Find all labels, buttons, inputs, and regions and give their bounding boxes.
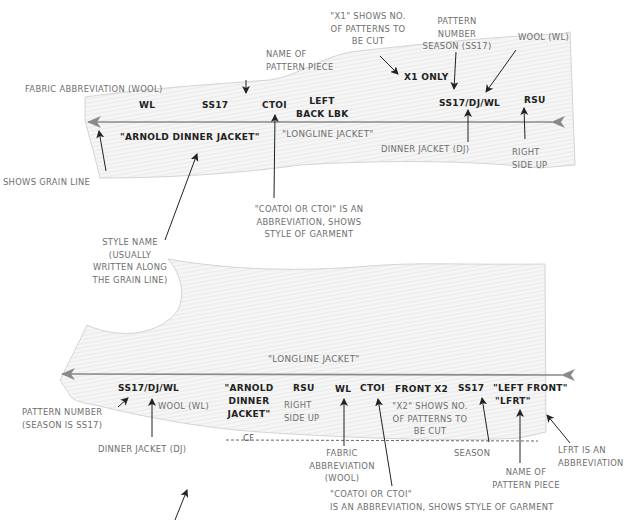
annotation-line: FABRIC [302, 447, 382, 460]
marking-centre-front: CF [243, 432, 254, 445]
annotation-line: "X1" SHOWS NO. [314, 10, 422, 23]
annotation-wool: WOOL (WL) [518, 31, 569, 44]
annotation-line: "X2" SHOWS NO. [385, 400, 475, 413]
annotation-line: BE CUT [314, 35, 422, 48]
marking-season-bottom: SS17 [458, 382, 484, 395]
annotation-name-of-piece: NAME OF PATTERN PIECE [266, 48, 334, 73]
annotation-right-side-up: RIGHT SIDE UP [512, 146, 547, 171]
marking-style-code-bottom: CTOI [360, 382, 385, 395]
annotation-dinner-jacket: DINNER JACKET (DJ) [381, 143, 469, 156]
marking-piece-name-line2: BACK LBK [296, 108, 348, 121]
annotation-line: "COATOI OR CTOI" IS AN [238, 203, 380, 216]
marking-fabric-top: WL [139, 99, 155, 112]
annotation-line: WRITTEN ALONG [82, 261, 178, 274]
marking-pattern-number-top: SS17/DJ/WL [439, 97, 500, 110]
annotation-line: NUMBER [416, 28, 498, 41]
annotation-coatoi-top: "COATOI OR CTOI" IS AN ABBREVIATION, SHO… [238, 203, 380, 241]
annotation-line: PATTERN NUMBER [22, 406, 102, 419]
annotation-coatoi-bottom: "COATOI OR CTOI" IS AN ABBREVIATION, SHO… [330, 488, 554, 513]
marking-pattern-number-bottom: SS17/DJ/WL [118, 382, 179, 395]
arrow-lfrt [547, 415, 570, 443]
marking-orientation-bottom: RSU [293, 382, 315, 395]
marking-season-top: SS17 [202, 99, 228, 112]
annotation-line: IS AN ABBREVIATION, SHOWS STYLE OF GARME… [330, 501, 554, 514]
marking-cut-quantity-bottom: FRONT X2 [395, 383, 448, 396]
marking-piece-name-top: LEFT BACK LBK [296, 95, 348, 121]
marking-cut-quantity-top: X1 ONLY [404, 71, 448, 84]
annotation-lfrt-abbreviation: LFRT IS AN ABBREVIATION [558, 444, 624, 469]
marking-style-code-top: CTOI [262, 99, 287, 112]
annotation-line: OF PATTERNS TO [314, 23, 422, 36]
annotation-right-side-up-bottom: RIGHT SIDE UP [284, 399, 319, 424]
marking-style-name-bottom: "ARNOLD DINNER JACKET" [222, 382, 276, 421]
marking-longline-bottom: "LONGLINE JACKET" [268, 353, 360, 366]
annotation-line: (USUALLY [82, 249, 178, 262]
annotation-line: NAME OF [486, 466, 566, 479]
annotation-line: BE CUT [385, 425, 475, 438]
centre-front-line [226, 440, 538, 441]
annotation-line: SIDE UP [512, 159, 547, 172]
annotation-x2-shows: "X2" SHOWS NO. OF PATTERNS TO BE CUT [385, 400, 475, 438]
annotation-shows-grain-line: SHOWS GRAIN LINE [3, 176, 90, 189]
annotation-line: OF PATTERNS TO [385, 413, 475, 426]
annotation-line: LFRT IS AN [558, 444, 624, 457]
annotation-line: STYLE OF GARMENT [238, 228, 380, 241]
annotation-pattern-number-bottom: PATTERN NUMBER (SEASON IS SS17) [22, 406, 102, 431]
annotation-wool-bottom: WOOL (WL) [158, 400, 209, 413]
annotation-line: STYLE NAME [82, 236, 178, 249]
annotation-line: SEASON (SS17) [416, 40, 498, 53]
annotation-line: RIGHT [284, 399, 319, 412]
marking-piece-name-line1: LEFT [296, 95, 348, 108]
marking-line: JACKET" [222, 408, 276, 421]
annotation-line: ABBREVIATION [558, 457, 624, 470]
marking-style-name-top: "ARNOLD DINNER JACKET" [120, 131, 260, 144]
grain-line-bottom [62, 374, 562, 375]
annotation-line: SIDE UP [284, 412, 319, 425]
marking-piece-name-bottom: "LEFT FRONT" [493, 382, 568, 395]
marking-fabric-bottom: WL [335, 383, 351, 396]
marking-orientation-top: RSU [524, 94, 546, 107]
annotation-line: NAME OF [266, 48, 334, 61]
annotation-line: PATTERN PIECE [266, 61, 334, 74]
annotation-season-bottom: SEASON [454, 447, 490, 460]
annotation-style-name: STYLE NAME (USUALLY WRITTEN ALONG THE GR… [82, 236, 178, 286]
annotation-fabric-abbreviation-bottom: FABRIC ABBREVIATION (WOOL) [302, 447, 382, 485]
annotation-pattern-number-season: PATTERN NUMBER SEASON (SS17) [416, 15, 498, 53]
annotation-line: THE GRAIN LINE) [82, 274, 178, 287]
annotation-line: "COATOI OR CTOI" [330, 488, 554, 501]
marking-piece-abbrev-bottom: "LFRT" [495, 395, 531, 408]
annotation-dinner-jacket-bottom: DINNER JACKET (DJ) [98, 443, 186, 456]
marking-line: "ARNOLD [222, 382, 276, 395]
annotation-x1-shows: "X1" SHOWS NO. OF PATTERNS TO BE CUT [314, 10, 422, 48]
arrow-hem [175, 490, 187, 520]
annotation-line: ABBREVIATION [302, 460, 382, 473]
marking-longline-top: "LONGLINE JACKET" [282, 128, 374, 141]
marking-line: DINNER [222, 395, 276, 408]
annotation-line: PATTERN [416, 15, 498, 28]
annotation-line: (WOOL) [302, 472, 382, 485]
annotation-line: RIGHT [512, 146, 547, 159]
annotation-line: ABBREVIATION, SHOWS [238, 216, 380, 229]
annotation-line: (SEASON IS SS17) [22, 419, 102, 432]
annotation-fabric-abbreviation: FABRIC ABBREVIATION (WOOL) [25, 83, 163, 96]
